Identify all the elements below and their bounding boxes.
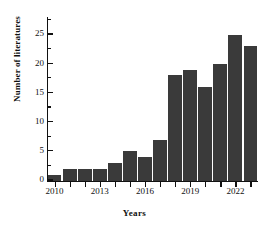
- y-tick-label: 5: [40, 145, 45, 155]
- y-tick: 10: [48, 121, 53, 122]
- y-tick-label: 20: [35, 58, 44, 68]
- x-tick-label: 2022: [226, 186, 244, 196]
- bar-chart: Number of literatures 0510152025 2010201…: [0, 0, 269, 230]
- x-tick-label: 2013: [91, 186, 109, 196]
- bar: [244, 46, 258, 180]
- y-tick-label: 10: [35, 116, 44, 126]
- x-axis-line: [47, 181, 258, 182]
- bar: [138, 157, 152, 180]
- x-tick-label: 2016: [136, 186, 154, 196]
- bar: [183, 70, 197, 181]
- bar: [108, 163, 122, 181]
- bar: [93, 169, 107, 181]
- x-tick: [205, 182, 206, 187]
- y-tick: 20: [48, 63, 53, 64]
- bar: [198, 87, 212, 180]
- bar: [168, 75, 182, 180]
- y-tick: 25: [48, 33, 53, 34]
- x-tick: [85, 182, 86, 187]
- y-tick-minor: [48, 19, 51, 20]
- y-tick: 0: [48, 179, 53, 180]
- bar: [153, 140, 167, 181]
- x-tick-label: 2010: [46, 186, 64, 196]
- y-tick-label: 0: [40, 174, 45, 184]
- bar: [213, 64, 227, 181]
- x-tick: [250, 182, 251, 187]
- bar: [63, 169, 77, 181]
- y-tick-minor: [48, 165, 51, 166]
- x-tick-label: 2019: [181, 186, 199, 196]
- y-tick-label: 25: [35, 28, 44, 38]
- bar: [228, 35, 242, 181]
- y-tick: 5: [48, 150, 53, 151]
- x-axis-title: Years: [0, 208, 269, 218]
- y-tick-minor: [48, 136, 51, 137]
- y-tick-minor: [48, 48, 51, 49]
- x-tick: [115, 182, 116, 187]
- y-tick-minor: [48, 106, 51, 107]
- x-tick: [220, 182, 221, 187]
- y-axis-title: Number of literatures: [12, 0, 22, 124]
- x-tick: [160, 182, 161, 187]
- y-tick: 15: [48, 92, 53, 93]
- x-tick: [130, 182, 131, 187]
- y-tick-minor: [48, 77, 51, 78]
- x-tick: [175, 182, 176, 187]
- bars-layer: [47, 17, 258, 181]
- y-tick-label: 15: [35, 87, 44, 97]
- bar: [78, 169, 92, 181]
- plot-area: 0510152025 20102013201620192022: [47, 17, 258, 182]
- x-tick: [70, 182, 71, 187]
- bar: [123, 151, 137, 180]
